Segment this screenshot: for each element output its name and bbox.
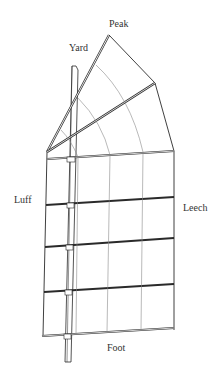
- battens: [42, 83, 174, 336]
- label-foot: Foot: [107, 343, 125, 353]
- label-peak: Peak: [109, 19, 128, 29]
- label-yard: Yard: [69, 43, 88, 53]
- junk-sail-diagram: [0, 0, 219, 384]
- label-luff: Luff: [14, 195, 32, 205]
- label-leech: Leech: [183, 203, 207, 213]
